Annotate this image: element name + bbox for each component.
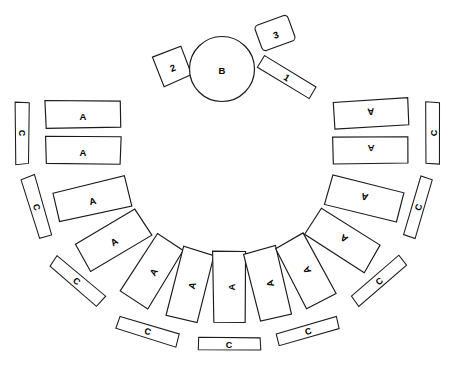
shape-c-4: C: [116, 316, 180, 347]
shape-c-9: C: [426, 102, 440, 164]
top-text-fragment: [0, 0, 450, 9]
shape-a-7: A: [213, 251, 246, 322]
a-12-label: A: [367, 143, 374, 154]
shape-a-13: A: [333, 97, 409, 130]
a-7-label: A: [226, 283, 237, 290]
radial-plan-diagram: CCCCCCCCC AAAAAAAAAAAAA 123 B: [0, 0, 450, 367]
shape-a-1: A: [45, 101, 121, 129]
a-1-label: A: [80, 111, 87, 122]
c-1-label: C: [17, 130, 27, 137]
center-circle-label: B: [219, 65, 226, 76]
shape-c-8: C: [403, 176, 433, 238]
shape-c-6: C: [276, 316, 340, 347]
a-13-label: A: [367, 106, 375, 117]
shape-c-5: C: [198, 337, 261, 350]
shape-element-1: 1: [257, 55, 316, 99]
shape-a-11: A: [324, 175, 403, 223]
shape-element-3: 3: [254, 14, 296, 51]
shape-c-2: C: [21, 175, 53, 239]
diagram-canvas: CCCCCCCCC AAAAAAAAAAAAA 123 B: [0, 0, 450, 367]
c-9-label: C: [429, 129, 439, 136]
c-5-label: C: [226, 340, 233, 350]
shape-a-12: A: [333, 137, 408, 164]
shape-a-3: A: [53, 176, 132, 223]
a-2-label: A: [80, 147, 87, 158]
shape-c-1: C: [15, 102, 29, 165]
shape-a-2: A: [46, 136, 122, 164]
shape-element-2: 2: [152, 46, 192, 87]
center-group: B: [190, 37, 255, 102]
inner-ring-group: AAAAAAAAAAAAA: [45, 97, 410, 323]
